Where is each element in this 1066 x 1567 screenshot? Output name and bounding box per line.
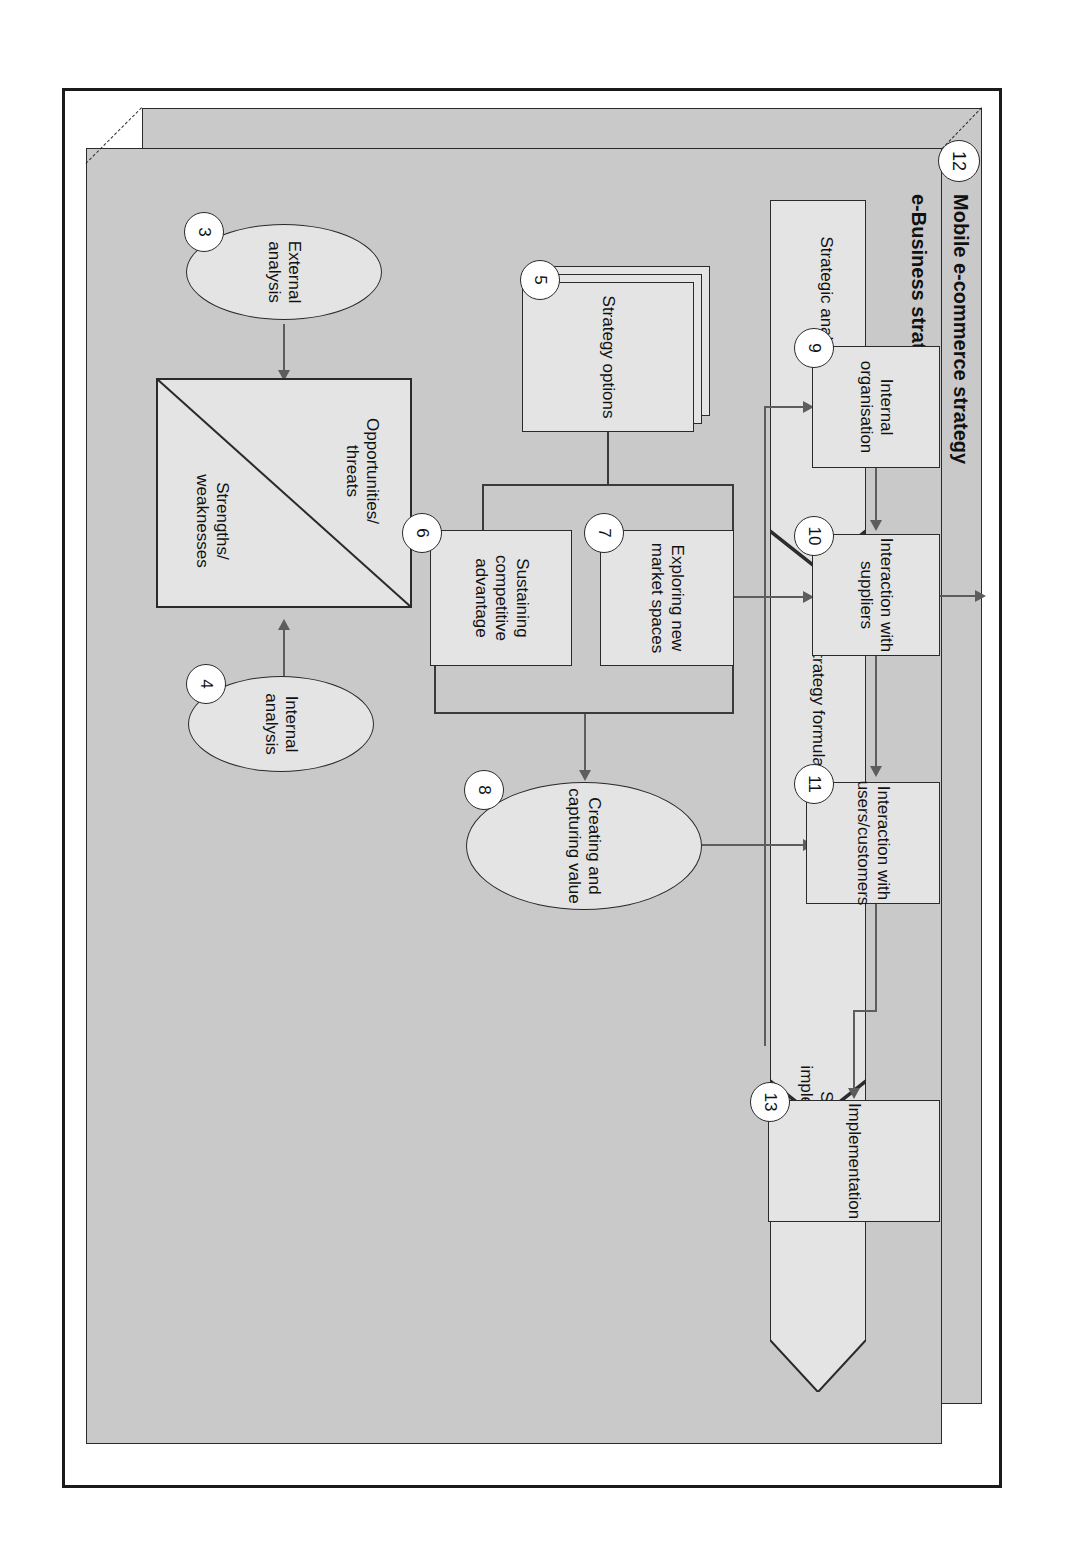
node-strategy-options-label: Strategy options: [598, 296, 618, 419]
node-interaction-with-customers[interactable]: Interaction with users/customers: [806, 782, 940, 904]
node-exploring-label: Exploring new market spaces: [647, 531, 688, 665]
node-implementation-label: Implementation: [844, 1103, 864, 1219]
swot-label-opportunities: Opportunities/ threats: [341, 406, 382, 536]
node-number-13: 13: [750, 1082, 790, 1122]
connector-internalorg-to-suppliers: [875, 468, 877, 520]
node-exploring-new-market-spaces[interactable]: Exploring new market spaces: [600, 530, 734, 666]
diagram-stage: 12 Mobile e-commerce strategy e-Business…: [62, 88, 1002, 1488]
arrowhead-suppliers-to-customers: [870, 766, 882, 777]
arrowhead-internal-to-swot: [278, 619, 290, 630]
connector-internal-to-swot: [283, 630, 285, 676]
node-strategy-options[interactable]: Strategy options: [522, 282, 694, 432]
node-external-analysis-label: External analysis: [264, 225, 305, 319]
node-number-8: 8: [464, 770, 504, 810]
connector-suppliers-to-implementation: [938, 595, 978, 597]
panel-title-mobile-ecommerce: Mobile e-commerce strategy: [949, 194, 972, 464]
node-sustaining-competitive-advantage[interactable]: Sustaining competitive advantage: [430, 530, 572, 666]
connector-suppliers-to-customers: [875, 656, 877, 766]
node-number-10: 10: [794, 516, 834, 556]
node-number-7: 7: [584, 513, 624, 553]
node-number-5: 5: [520, 260, 560, 300]
node-customers-label: Interaction with users/customers: [853, 781, 894, 906]
connector-external-to-swot: [283, 324, 285, 370]
figure-page: 12 Mobile e-commerce strategy e-Business…: [0, 0, 1066, 1567]
bracket-exploring-out: [732, 666, 734, 714]
swot-label-strengths: Strengths/ weaknesses: [191, 456, 232, 586]
connector-bus-horizontal: [764, 406, 766, 1046]
node-number-11: 11: [794, 764, 834, 804]
node-value-label: Creating and capturing value: [564, 783, 605, 909]
chapter-badge-12: 12: [938, 140, 980, 182]
arrowhead-to-implementation: [848, 1088, 860, 1099]
connector-bus-to-internal-org: [764, 406, 806, 408]
connector-customers-rightstem: [875, 904, 877, 1012]
node-number-9: 9: [794, 328, 834, 368]
connector-merge-to-value: [584, 714, 586, 770]
bracket-options-vertical: [482, 484, 734, 486]
connector-customers-up-to-implementation: [853, 1010, 877, 1012]
node-number-4: 4: [186, 664, 226, 704]
node-creating-capturing-value[interactable]: Creating and capturing value: [466, 782, 702, 910]
connector-value-riser: [698, 844, 766, 846]
connector-to-implementation: [853, 1010, 855, 1088]
arrowhead-suppliers-to-implementation: [975, 590, 986, 602]
arrowhead-internalorg-to-suppliers: [870, 520, 882, 531]
node-internal-org-label: Internal organisation: [856, 347, 897, 467]
node-interaction-with-suppliers[interactable]: Interaction with suppliers: [812, 534, 940, 656]
bracket-options-stem: [607, 432, 609, 486]
node-implementation[interactable]: Implementation: [768, 1100, 940, 1222]
node-number-3: 3: [184, 212, 224, 252]
diagram-viewport: 12 Mobile e-commerce strategy e-Business…: [62, 88, 1002, 1488]
arrowhead-merge-to-value: [579, 770, 591, 781]
connector-exploring-riser: [734, 596, 766, 598]
node-internal-analysis-label: Internal analysis: [261, 677, 302, 771]
node-number-6: 6: [402, 513, 442, 553]
bracket-to-exploring: [732, 484, 734, 532]
node-sustaining-label: Sustaining competitive advantage: [470, 531, 531, 665]
connector-bus-to-customers: [764, 844, 806, 846]
node-suppliers-label: Interaction with suppliers: [856, 535, 897, 655]
node-internal-organisation[interactable]: Internal organisation: [812, 346, 940, 468]
bracket-sustaining-out: [434, 666, 436, 714]
connector-bus-to-suppliers: [764, 596, 806, 598]
bracket-to-sustaining: [482, 484, 484, 532]
